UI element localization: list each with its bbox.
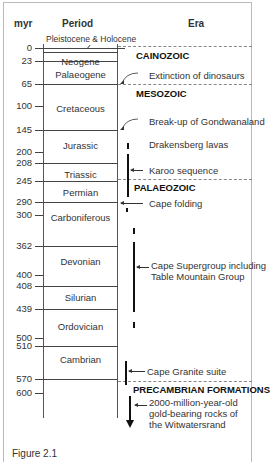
period-name: Jurassic (43, 140, 118, 151)
tick-mark (35, 48, 43, 49)
witwatersrand-bar (129, 396, 131, 422)
tick-mark (35, 152, 43, 153)
cape-folding-bar (126, 208, 128, 212)
period-boundary-line (43, 84, 118, 85)
tick-mark (35, 393, 43, 394)
header-era: Era (188, 18, 204, 29)
period-boundary-line (43, 130, 118, 131)
tick-label: 245 (6, 176, 32, 186)
tick-mark (35, 379, 43, 380)
extinction-pointer-icon (118, 70, 140, 86)
tick-label: 290 (6, 197, 32, 207)
karoo-arrow-icon (131, 170, 143, 171)
event-witwatersrand-line1: 2000-million-year-old (149, 397, 238, 408)
figure-caption: Figure 2.1 (12, 448, 57, 459)
cape-granite-bar (125, 361, 127, 385)
cape-supergroup-bar (133, 242, 135, 312)
tick-mark (35, 163, 43, 164)
tick-label: 200 (6, 147, 32, 157)
period-name: Palaeogene (43, 69, 118, 80)
tick-label: 23 (6, 56, 32, 66)
period-name: Cretaceous (43, 103, 118, 114)
tick-label: 400 (6, 270, 32, 280)
cape-granite-arrow-icon (129, 371, 145, 372)
period-name: Silurian (43, 292, 118, 303)
tick-label: 362 (6, 241, 32, 251)
tick-mark (35, 215, 43, 216)
tick-mark (35, 61, 43, 62)
tick-mark (35, 286, 43, 287)
tick-mark (35, 130, 43, 131)
karoo-bar (127, 154, 129, 197)
tick-mark (35, 246, 43, 247)
tick-label: 510 (6, 341, 32, 351)
cape-supergroup-bottom-bar (133, 322, 135, 328)
header-period: Period (62, 18, 93, 29)
event-karoo-sequence: Karoo sequence (149, 165, 218, 176)
header-myr: myr (14, 18, 32, 29)
event-cape-supergroup-line2: Table Mountain Group (151, 271, 244, 282)
period-boundary-line (43, 346, 118, 347)
period-name: Neogene (43, 56, 118, 67)
period-name: Permian (43, 187, 118, 198)
era-divider-palaeozoic (118, 179, 252, 180)
period-name: Cambrian (43, 354, 118, 365)
period-boundary-line (43, 379, 118, 380)
cape-supergroup-top-bar (133, 228, 135, 234)
period-name: Ordovician (43, 321, 118, 332)
witwatersrand-arrow-icon (135, 405, 147, 406)
event-extinction-dinosaurs: Extinction of dinosaurs (149, 70, 245, 81)
period-name: Triassic (43, 169, 118, 180)
tick-label: 439 (6, 304, 32, 314)
tick-label: 65 (6, 79, 32, 89)
event-gondwana-breakup: Break-up of Gondwanaland (149, 116, 265, 127)
event-cape-folding: Cape folding (149, 198, 202, 209)
event-witwatersrand-line2: gold-bearing rocks of (149, 408, 238, 419)
tick-mark (35, 309, 43, 310)
drakensberg-bar (127, 143, 129, 149)
tick-mark (35, 202, 43, 203)
period-boundary-line (43, 286, 118, 287)
era-mesozoic: MESOZOIC (136, 88, 187, 99)
tick-mark (35, 346, 43, 347)
tick-mark (35, 84, 43, 85)
period-boundary-line (43, 246, 118, 247)
era-divider-precambrian (118, 381, 252, 382)
event-witwatersrand-line3: the Witwatersrand (149, 419, 226, 430)
event-cape-supergroup-line1: Cape Supergroup including (151, 260, 266, 271)
period-boundary-line (43, 181, 118, 182)
tick-label: 145 (6, 125, 32, 135)
event-cape-granite-suite: Cape Granite suite (147, 366, 226, 377)
tick-label: 208 (6, 158, 32, 168)
tick-mark (35, 338, 43, 339)
pleistocene-boundary-line (43, 52, 118, 53)
period-name: Carboniferous (43, 212, 118, 223)
tick-label: 408 (6, 281, 32, 291)
tick-label: 600 (6, 388, 32, 398)
period-boundary-line (43, 48, 125, 49)
down-arrow-icon (126, 420, 134, 428)
event-drakensberg-lavas: Drakensberg lavas (149, 139, 228, 150)
era-precambrian: PRECAMBRIAN FORMATIONS (133, 384, 270, 395)
era-divider-cainozoic (118, 46, 252, 47)
era-palaeozoic: PALAEOZOIC (134, 182, 196, 193)
tick-label: 300 (6, 210, 32, 220)
period-boundary-line (43, 163, 118, 164)
tick-mark (35, 106, 43, 107)
gondwana-pointer-icon (118, 116, 140, 132)
cape-folding-arrow-icon (121, 203, 143, 204)
period-boundary-line (43, 309, 118, 310)
tick-mark (35, 181, 43, 182)
tick-mark (35, 275, 43, 276)
period-name: Devonian (43, 256, 118, 267)
period-boundary-line (43, 202, 118, 203)
tick-label: 0 (6, 43, 32, 53)
tick-label: 570 (6, 374, 32, 384)
pleistocene-holocene-label: Pleistocene & Holocene (46, 34, 136, 44)
era-cainozoic: CAINOZOIC (136, 50, 189, 61)
cape-supergroup-arrow-icon (137, 267, 149, 268)
tick-label: 100 (6, 101, 32, 111)
